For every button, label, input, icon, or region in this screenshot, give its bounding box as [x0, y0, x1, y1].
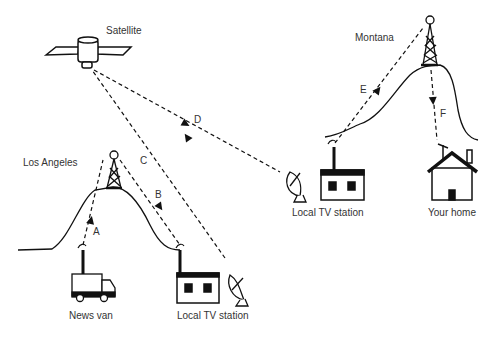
satellite-icon — [46, 37, 131, 68]
montana-tower-icon — [421, 16, 438, 65]
path-label-b: B — [155, 189, 162, 200]
path-b — [120, 160, 180, 245]
montana-tv-station-label: Local TV station — [292, 207, 364, 218]
path-label-f: F — [440, 108, 446, 119]
news-van-icon — [72, 250, 115, 302]
los-angeles-label: Los Angeles — [23, 157, 78, 168]
home-icon — [428, 144, 477, 200]
path-f — [431, 70, 437, 140]
satellite-label: Satellite — [106, 25, 142, 36]
path-label-c: C — [140, 155, 147, 166]
path-label-a: A — [93, 226, 100, 237]
montana-hill — [325, 65, 478, 140]
diagram-canvas — [0, 0, 498, 339]
your-home-label: Your home — [428, 207, 476, 218]
la-tv-station-label: Local TV station — [177, 310, 249, 321]
path-e — [335, 28, 423, 143]
montana-tv-station-icon — [321, 147, 364, 200]
path-d — [94, 70, 280, 172]
news-van-label: News van — [69, 310, 113, 321]
la-satellite-dish-icon — [229, 275, 248, 306]
la-tv-station-icon — [177, 250, 219, 303]
montana-label: Montana — [355, 32, 394, 43]
path-label-e: E — [360, 84, 367, 95]
path-c — [92, 70, 225, 258]
path-label-d: D — [194, 114, 201, 125]
los-angeles-tower-icon — [106, 151, 122, 188]
montana-satellite-dish-icon — [287, 172, 306, 202]
